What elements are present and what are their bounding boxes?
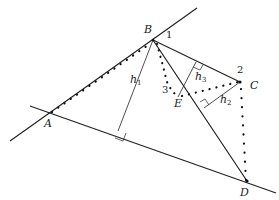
vertex-b (152, 39, 155, 42)
label-point-a: A (43, 117, 52, 130)
vertex-c (238, 80, 241, 83)
vertex-d (245, 179, 248, 182)
line-ad-extended (30, 106, 276, 193)
label-angle-1: 1 (166, 29, 172, 40)
label-angle-3: 3 (162, 84, 168, 95)
line-ab-extended (10, 8, 197, 141)
label-point-d: D (239, 186, 249, 199)
segment-bd (153, 40, 247, 181)
geometry-diagram: A B C D E 1 2 3 h1 h3 h2 (0, 0, 279, 200)
right-angle-marker-h2 (200, 99, 209, 105)
label-point-e: E (173, 97, 182, 110)
label-point-b: B (143, 23, 152, 36)
label-point-c: C (250, 79, 259, 92)
dotted-path-ec (182, 82, 238, 96)
dotted-path-cd (241, 89, 246, 180)
label-h3: h3 (195, 70, 207, 84)
label-angle-2: 2 (237, 64, 243, 75)
label-h2: h2 (220, 93, 232, 107)
